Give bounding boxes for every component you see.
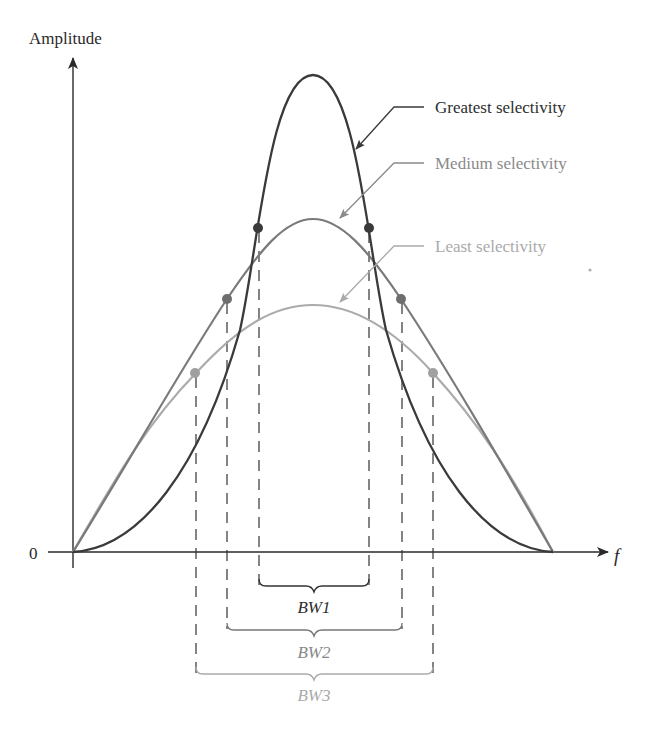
medium-right-dot	[396, 294, 406, 304]
greatest-selectivity-label: Greatest selectivity	[435, 98, 566, 117]
least-left-dot	[190, 368, 200, 378]
bw3-brace-shape	[196, 667, 433, 680]
bw1-brace: BW1	[259, 579, 369, 617]
bw2-label: BW2	[297, 643, 331, 662]
axes	[48, 58, 608, 568]
medium-left-dot	[222, 294, 232, 304]
origin-label: 0	[29, 544, 38, 563]
medium-selectivity-label: Medium selectivity	[435, 154, 567, 173]
greatest-leader-line	[356, 107, 424, 149]
medium-leader-line	[340, 163, 424, 218]
x-axis-label: f	[614, 545, 622, 566]
bw1-label: BW1	[297, 598, 330, 617]
bw1-brace-shape	[259, 579, 369, 592]
stray-dot	[588, 268, 591, 271]
bw3-label: BW3	[297, 686, 330, 705]
least-leader-line	[340, 246, 424, 302]
least-selectivity-label: Least selectivity	[435, 237, 546, 256]
callout-medium: Medium selectivity	[340, 154, 567, 218]
greatest-right-dot	[364, 223, 374, 233]
callout-greatest: Greatest selectivity	[356, 98, 566, 149]
least-right-dot	[428, 368, 438, 378]
bw2-brace: BW2	[227, 623, 402, 662]
curve-greatest-selectivity	[73, 75, 553, 552]
bw2-brace-shape	[227, 623, 402, 636]
greatest-left-dot	[253, 223, 263, 233]
y-axis-label: Amplitude	[29, 29, 102, 48]
selectivity-diagram: Amplitude f 0 Greatest selectivity Mediu…	[0, 0, 654, 730]
curve-medium-selectivity	[73, 219, 553, 552]
bw3-brace: BW3	[196, 667, 433, 705]
